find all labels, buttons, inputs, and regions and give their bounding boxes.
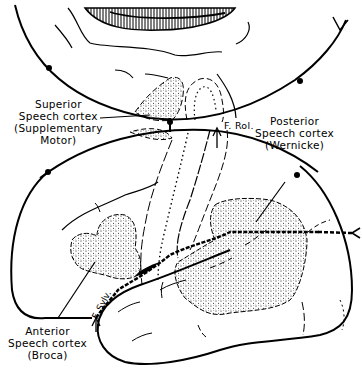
marker-dot bbox=[297, 78, 303, 84]
corpus-callosum bbox=[85, 8, 235, 30]
label-anterior-speech-cortex: Anterior Speech cortex (Broca) bbox=[8, 325, 87, 361]
label-fissure-rolando: F. Rol. bbox=[224, 120, 254, 132]
posterior-speech-cortex bbox=[175, 198, 307, 314]
marker-dot bbox=[294, 172, 300, 178]
superior-speech-cortex-medial bbox=[135, 77, 183, 120]
label-superior-speech-cortex: Superior Speech cortex (Supplementary Mo… bbox=[14, 98, 103, 146]
label-posterior-speech-cortex: Posterior Speech cortex (Wernicke) bbox=[255, 115, 334, 151]
marker-dot bbox=[45, 169, 51, 175]
brain-diagram bbox=[0, 0, 362, 371]
marker-dot bbox=[46, 65, 52, 71]
anterior-speech-cortex bbox=[71, 214, 141, 278]
leader-anterior bbox=[58, 262, 95, 318]
